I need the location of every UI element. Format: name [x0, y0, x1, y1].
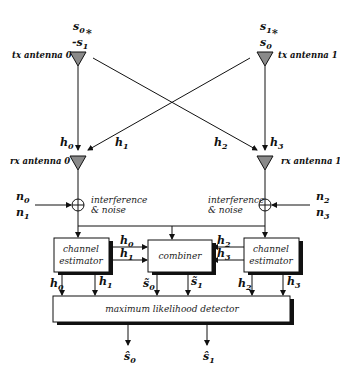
ml-detector-block: maximum likelihood detector	[53, 296, 294, 325]
tx1-symbol-s1: s1	[260, 20, 272, 35]
svg-text:combiner: combiner	[158, 251, 202, 261]
label-s1-tilde: s̃1	[191, 275, 203, 290]
svg-text:estimator: estimator	[249, 256, 293, 266]
antenna-icon	[257, 156, 273, 170]
output-s1-hat: ŝ1	[203, 350, 215, 365]
label-h3-comb: h3	[217, 247, 231, 262]
tx-antenna-1-label: tx antenna 1	[278, 50, 338, 60]
noise-label: & noise	[91, 205, 126, 215]
channel-estimator-left: channel estimator	[54, 238, 113, 275]
noise-label: interference	[91, 195, 147, 205]
svg-text:estimator: estimator	[59, 256, 103, 266]
diagram-canvas: s0 * -s1 tx antenna 0 s1 * s0 tx antenna…	[0, 0, 340, 376]
tx0-symbol-s0: s0	[73, 20, 85, 35]
svg-text:channel: channel	[63, 244, 99, 254]
svg-text:*: *	[272, 27, 278, 40]
antenna-icon	[70, 156, 86, 170]
path-h1	[88, 58, 250, 150]
antenna-icon	[70, 52, 86, 66]
combiner-block: combiner	[148, 240, 216, 275]
svg-text:maximum likelihood detector: maximum likelihood detector	[105, 304, 239, 314]
label-n1: n1	[16, 206, 30, 221]
rx-antenna-1-label: rx antenna 1	[281, 156, 340, 166]
tx-antenna-0: s0 * -s1 tx antenna 0	[12, 20, 92, 150]
label-h3: h3	[270, 136, 284, 151]
label-h2-det: h2	[238, 277, 252, 292]
label-h1-comb: h1	[120, 247, 134, 262]
label-h2: h2	[214, 136, 228, 151]
output-s0-hat: ŝ0	[124, 350, 136, 365]
label-n3: n3	[316, 206, 330, 221]
rx-antenna-0: rx antenna 0 n0 n1 interference & noise	[10, 156, 147, 237]
label-n2: n2	[316, 190, 330, 205]
svg-text:channel: channel	[253, 244, 289, 254]
label-h1: h1	[115, 136, 129, 151]
rx-antenna-0-label: rx antenna 0	[10, 156, 70, 166]
noise-label: & noise	[208, 205, 243, 215]
channel-estimator-right: channel estimator	[244, 238, 303, 275]
svg-text:*: *	[86, 27, 92, 40]
rx-antenna-1: rx antenna 1 n2 n3 interference & noise	[208, 156, 340, 237]
label-s0-tilde: s̃0	[143, 277, 155, 292]
antenna-icon	[257, 52, 273, 66]
tx-antenna-0-label: tx antenna 0	[12, 50, 72, 60]
label-h1-det: h1	[99, 275, 113, 290]
noise-label: interference	[208, 195, 264, 205]
label-n0: n0	[16, 190, 30, 205]
tx1-symbol-s0conj: s0	[260, 36, 272, 51]
tx-antenna-1: s1 * s0 tx antenna 1	[257, 20, 338, 150]
label-h3-det: h3	[287, 275, 301, 290]
label-h0: h0	[60, 136, 74, 151]
